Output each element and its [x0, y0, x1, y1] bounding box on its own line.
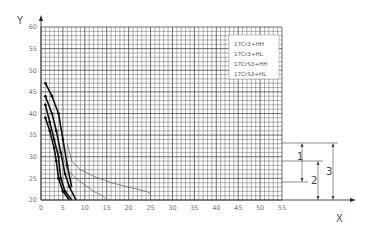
x-tick-label: 55 — [278, 204, 286, 212]
x-tick-label: 30 — [168, 204, 176, 212]
dimension-label-2: 2 — [311, 175, 317, 186]
legend-item-1: 17Cr3+HH — [234, 41, 264, 47]
data-curves — [44, 82, 150, 200]
chart-canvas: 0510152025303540455055202530354045505560… — [0, 0, 365, 235]
y-axis-label: Y — [16, 15, 24, 26]
x-tick-label: 5 — [61, 204, 65, 212]
x-tick-label: 10 — [81, 204, 89, 212]
y-tick-label: 25 — [29, 175, 37, 183]
dimension-label-1: 1 — [297, 151, 303, 162]
x-tick-label: 35 — [190, 204, 198, 212]
y-tick-label: 60 — [29, 23, 37, 31]
y-tick-label: 35 — [29, 131, 37, 139]
y-tick-label: 50 — [29, 67, 37, 75]
y-tick-label: 55 — [29, 45, 37, 53]
dimension-label-3: 3 — [326, 166, 332, 177]
x-tick-label: 15 — [103, 204, 111, 212]
y-tick-label: 30 — [29, 153, 37, 161]
x-tick-label: 0 — [39, 204, 43, 212]
y-tick-label: 40 — [29, 110, 37, 118]
x-tick-label: 40 — [212, 204, 220, 212]
legend-item-3: 17CrS3+HH — [234, 61, 268, 67]
legend-item-2: 17Cr3+HL — [234, 51, 264, 57]
x-tick-label: 20 — [124, 204, 132, 212]
x-tick-label: 25 — [146, 204, 154, 212]
y-tick-label: 20 — [29, 196, 37, 204]
legend-item-4: 17CrS3+HL — [234, 71, 267, 77]
x-tick-label: 45 — [234, 204, 242, 212]
y-tick-label: 45 — [29, 88, 37, 96]
legend: 17Cr3+HH 17Cr3+HL 17CrS3+HH 17CrS3+HL — [229, 35, 279, 79]
curve-thin-curve-a — [67, 144, 150, 194]
x-tick-label: 50 — [256, 204, 264, 212]
x-axis-label: X — [336, 213, 343, 224]
